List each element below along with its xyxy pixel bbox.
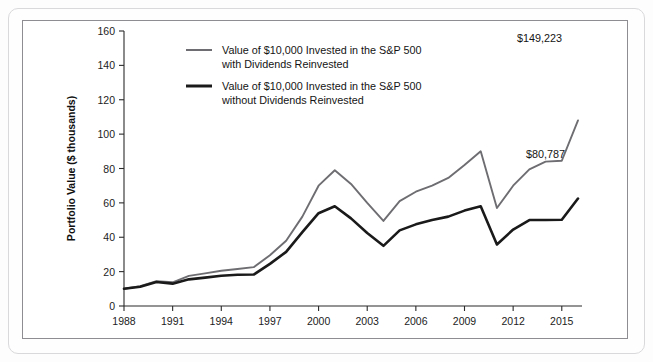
chart-frame-border <box>22 20 628 339</box>
clipped-top-text <box>14 0 314 7</box>
figure-root: 020406080100120140160 198819911994199720… <box>0 0 653 362</box>
